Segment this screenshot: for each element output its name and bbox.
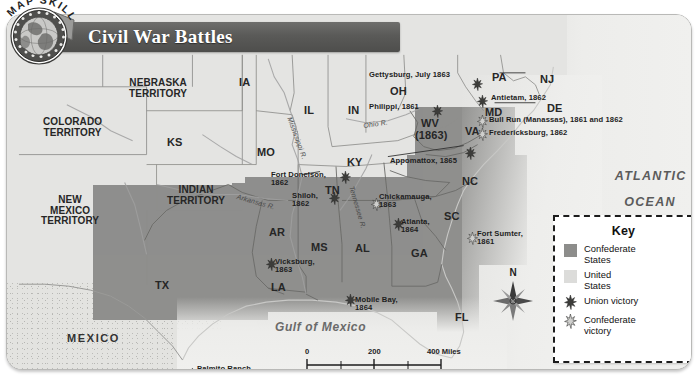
battle-label-1: Antietam, 1862 (491, 94, 546, 102)
state-label-il: IL (304, 105, 314, 117)
battle-label-7: Shiloh,1862 (292, 192, 318, 208)
battle-label-13: Palmito Ranch,1865 (197, 365, 253, 370)
battle-marker-7 (329, 191, 340, 204)
battle-label-2: Philippi, 1861 (369, 103, 419, 111)
scale-bar-graphic (305, 357, 477, 370)
battle-label-11: Vicksburg,1863 (275, 258, 315, 274)
battle-label-8: Chickamauga,1863 (379, 193, 432, 209)
scale-miles-tick-400: 400 Miles (427, 347, 461, 356)
battle-marker-2 (432, 104, 443, 117)
state-label-nc: NC (462, 176, 478, 188)
key-item-3: Confederatevictory (564, 314, 683, 336)
state-label-al: AL (355, 243, 370, 255)
star-confederate-icon (564, 314, 577, 329)
compass-north-label: N (491, 267, 535, 278)
state-label-la: LA (271, 282, 286, 294)
state-label-pa: PA (492, 72, 507, 84)
territory-label-2: NEWMEXICOTERRITORY (41, 195, 99, 227)
union-victory-icon (340, 171, 351, 184)
territory-label-0: NEBRASKATERRITORY (129, 78, 187, 99)
state-label-ga: GA (411, 248, 428, 260)
battle-label-12: Mobile Bay,1864 (355, 296, 398, 312)
battle-label-5: Appomattox, 1865 (390, 157, 457, 165)
globe-icon: MAP SKILL (2, 0, 78, 66)
union-victory-icon (465, 147, 476, 160)
state-label-ky: KY (347, 157, 362, 169)
battle-label-4: Fredericksburg, 1862 (489, 129, 567, 137)
territory-label-3: INDIANTERRITORY (167, 185, 225, 206)
swatch-union-icon (564, 270, 577, 283)
scale-miles-tick-0: 0 (305, 347, 309, 356)
battle-label-0: Gettysburg, July 1863 (369, 71, 450, 79)
key-item-1: UnitedStates (564, 269, 683, 291)
union-victory-icon (564, 295, 577, 310)
state-label-ar: AR (269, 227, 285, 239)
map-canvas: ATLANTIC OCEAN Gulf of Mexico MEXICO NEB… (7, 15, 691, 369)
confederate-victory-icon (477, 128, 488, 141)
atlantic-ocean-label: ATLANTIC OCEAN (577, 157, 685, 223)
state-label-ms: MS (311, 242, 328, 254)
union-victory-icon (472, 78, 483, 91)
map-frame: ATLANTIC OCEAN Gulf of Mexico MEXICO NEB… (6, 14, 692, 370)
battle-marker-4 (477, 127, 488, 140)
key-title: Key (564, 224, 683, 238)
state-label-1863: (1863) (415, 130, 447, 142)
state-label-oh: OH (390, 86, 407, 98)
page-title: Civil War Battles (52, 26, 233, 48)
key-item-label-0: ConfederateStates (584, 243, 636, 265)
state-label-ks: KS (167, 137, 182, 149)
key-item-label-1: UnitedStates (584, 269, 611, 291)
union-victory-icon (477, 95, 488, 108)
state-label-ia: IA (239, 77, 250, 89)
battle-marker-1 (477, 94, 488, 107)
star-union-icon (564, 295, 577, 310)
battle-marker-6 (340, 170, 351, 183)
compass-rose-icon (491, 280, 535, 322)
union-victory-icon (432, 105, 443, 118)
union-victory-icon (329, 192, 340, 205)
key-item-label-2: Union victory (584, 295, 638, 306)
battle-label-9: Atlanta,1864 (401, 218, 430, 234)
country-label-mexico: MEXICO (67, 333, 120, 345)
key-item-0: ConfederateStates (564, 243, 683, 265)
state-label-de: DE (547, 103, 562, 115)
state-label-tx: TX (155, 280, 169, 292)
civil-war-battles-map: ATLANTIC OCEAN Gulf of Mexico MEXICO NEB… (0, 0, 698, 385)
battle-marker-3 (477, 114, 488, 127)
map-skill-badge: MAP SKILL (2, 0, 78, 66)
state-label-nj: NJ (540, 74, 554, 86)
swatch-confederate-icon (564, 244, 577, 257)
compass-rose: N (491, 267, 535, 323)
scale-miles-tick-200: 200 (368, 347, 381, 356)
state-label-wv: WV (421, 118, 439, 130)
battle-label-6: Fort Donelson,1862 (271, 171, 326, 187)
key-item-label-3: Confederatevictory (584, 314, 636, 336)
battle-marker-5 (465, 146, 476, 159)
scale-bar: 0 200 400 Miles 0 200 400 Kilometers (305, 347, 477, 370)
key-item-2: Union victory (564, 295, 683, 310)
confederate-victory-icon (564, 314, 577, 329)
territory-label-1: COLORADOTERRITORY (43, 117, 102, 138)
map-key: Key ConfederateStatesUnitedStatesUnion v… (553, 215, 692, 363)
battle-label-10: Fort Sumter,1861 (477, 230, 523, 246)
state-label-fl: FL (455, 312, 469, 324)
gulf-of-mexico-label: Gulf of Mexico (275, 321, 366, 334)
battle-marker-0 (472, 77, 483, 90)
title-banner: Civil War Battles (52, 22, 400, 52)
battle-label-3: Bull Run (Manassas), 1861 and 1862 (489, 116, 623, 124)
key-item-list: ConfederateStatesUnitedStatesUnion victo… (564, 243, 683, 337)
state-label-in: IN (348, 105, 359, 117)
state-label-sc: SC (444, 211, 459, 223)
state-label-mo: MO (257, 147, 275, 159)
